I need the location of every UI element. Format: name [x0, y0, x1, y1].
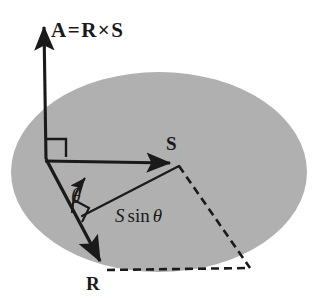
projection-length-label: Ssinθ — [115, 206, 162, 225]
vector-s-label: S — [166, 134, 177, 153]
equation-equals: = — [67, 18, 81, 42]
equation-a: A — [51, 18, 67, 42]
projection-sin: sin — [125, 205, 150, 226]
vector-a-arrow — [44, 27, 46, 159]
angle-theta-label: θ — [71, 186, 81, 206]
plane-ellipse — [11, 72, 307, 272]
equation-r: R — [81, 18, 97, 42]
cross-product-icon: × — [97, 18, 111, 42]
projection-s: S — [115, 205, 125, 226]
vector-r-label: R — [86, 274, 100, 293]
vector-cross-product-figure: A=R×S S R θ Ssinθ — [0, 0, 324, 300]
equation-label: A=R×S — [51, 20, 123, 41]
projection-theta: θ — [150, 205, 162, 226]
vector-s-arrow — [45, 161, 170, 163]
equation-s: S — [111, 18, 123, 42]
diagram-canvas — [0, 0, 324, 300]
